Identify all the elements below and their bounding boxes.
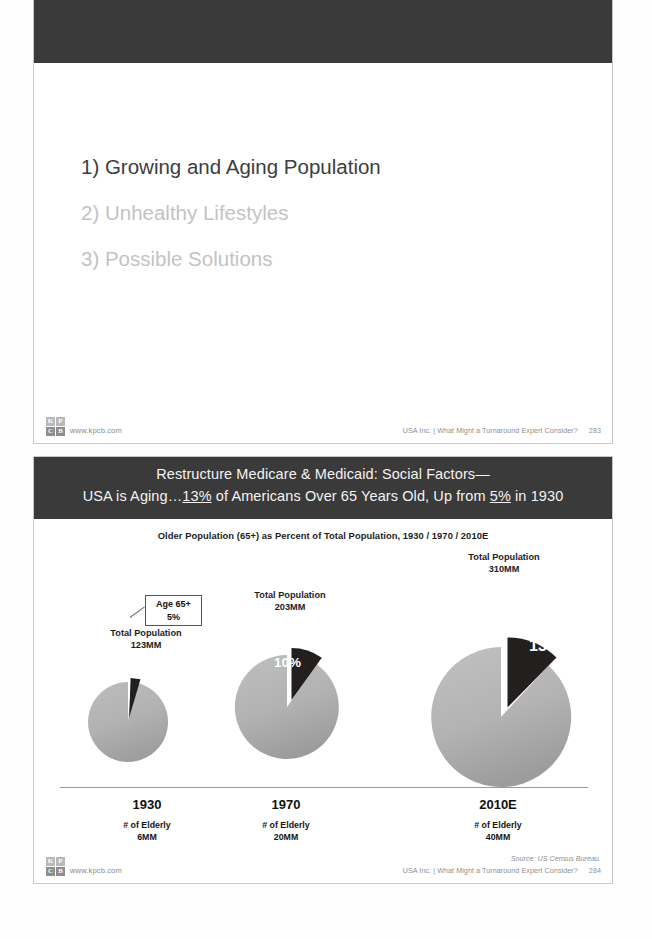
title-segment-a: USA is Aging… [83, 488, 183, 504]
axis-col-2010e: 2010E # of Elderly 40MM [423, 795, 573, 843]
axis-elderly-1930: # of Elderly 6MM [72, 819, 222, 843]
title-stat-5pct: 5% [490, 488, 511, 504]
axis-year-1970: 1970 [211, 795, 361, 815]
slide-title-line-1: Restructure Medicare & Medicaid: Social … [34, 463, 612, 485]
agenda-list: 1) Growing and Aging Population 2) Unhea… [81, 144, 561, 282]
axis-elderly-1970: # of Elderly 20MM [211, 819, 361, 843]
deck-reference-text: USA Inc. | What Might a Turnaround Exper… [403, 426, 578, 435]
pie-2010e-population-label: Total Population 310MM [424, 551, 584, 575]
pie-1970-svg [220, 629, 360, 789]
slide-title-line-2: USA is Aging…13% of Americans Over 65 Ye… [34, 485, 612, 507]
footer-deck-reference: USA Inc. | What Might a Turnaround Exper… [403, 426, 601, 435]
title-stat-13pct: 13% [182, 488, 211, 504]
pie-1930-slice-under65 [88, 682, 168, 762]
slide-footer: K P C B www.kpcb.com Source: US Census B… [34, 849, 612, 883]
pie-chart-group: Older Population (65+) as Percent of Tot… [34, 519, 612, 849]
kpcb-logo-icon: K P C B [46, 857, 65, 876]
logo-letter-p: P [56, 417, 65, 426]
slide-agenda: 1) Growing and Aging Population 2) Unhea… [33, 0, 613, 444]
slide-header-bar: Restructure Medicare & Medicaid: Social … [34, 457, 612, 519]
logo-letter-b: B [56, 867, 65, 876]
page-number: 283 [589, 426, 601, 435]
pie-1970-slice-percent: 10% [274, 655, 301, 670]
pie-2010e-pop-value: 310MM [489, 564, 520, 574]
axis-elderly-label-1970: # of Elderly [262, 820, 309, 830]
slide-header-bar [34, 0, 612, 63]
kpcb-url[interactable]: www.kpcb.com [70, 426, 122, 435]
callout-line-2: 5% [167, 612, 180, 622]
axis-elderly-value-2010e: 40MM [486, 832, 510, 842]
axis-year-2010e: 2010E [423, 795, 573, 815]
axis-elderly-2010e: # of Elderly 40MM [423, 819, 573, 843]
agenda-item-3[interactable]: 3) Possible Solutions [81, 236, 561, 282]
axis-col-1970: 1970 # of Elderly 20MM [211, 795, 361, 843]
kpcb-logo-icon: K P C B [46, 417, 65, 436]
footer-deck-reference: USA Inc. | What Might a Turnaround Exper… [403, 866, 601, 875]
pie-1930-svg [72, 666, 184, 778]
logo-letter-p: P [56, 857, 65, 866]
pie-1970-pop-value: 203MM [275, 602, 306, 612]
axis-elderly-value-1970: 20MM [274, 832, 298, 842]
kpcb-url[interactable]: www.kpcb.com [70, 866, 122, 875]
axis-elderly-label-2010e: # of Elderly [474, 820, 521, 830]
pie-1930-pop-value: 123MM [131, 640, 162, 650]
pie-1930-population-label: Total Population 123MM [66, 627, 226, 651]
callout-age-65-plus: Age 65+ 5% [145, 595, 202, 626]
callout-line-1: Age 65+ [156, 599, 191, 609]
logo-letter-k: K [46, 417, 55, 426]
slide-footer: K P C B www.kpcb.com USA Inc. | What Mig… [34, 409, 612, 443]
pie-1970-population-label: Total Population 203MM [210, 589, 370, 613]
chart-baseline [60, 787, 588, 788]
axis-col-1930: 1930 # of Elderly 6MM [72, 795, 222, 843]
callout-leader-line [130, 607, 145, 618]
scanned-presentation-page: 1) Growing and Aging Population 2) Unhea… [0, 0, 652, 939]
page-number: 284 [589, 866, 601, 875]
pie-2010e-pop-title: Total Population [468, 552, 539, 562]
logo-letter-k: K [46, 857, 55, 866]
logo-letter-c: C [46, 427, 55, 436]
pie-1970-pop-title: Total Population [254, 590, 325, 600]
axis-year-1930: 1930 [72, 795, 222, 815]
pie-2010e-slice-percent: 13% [529, 637, 561, 655]
pie-1930-pop-title: Total Population [110, 628, 181, 638]
agenda-item-1[interactable]: 1) Growing and Aging Population [81, 144, 561, 190]
logo-letter-c: C [46, 867, 55, 876]
pie-1970-slice-under65 [235, 655, 339, 759]
title-segment-c: of Americans Over 65 Years Old, Up from [212, 488, 490, 504]
chart-source-note: Source: US Census Bureau. [511, 854, 601, 863]
axis-elderly-value-1930: 6MM [137, 832, 157, 842]
agenda-item-2[interactable]: 2) Unhealthy Lifestyles [81, 190, 561, 236]
chart-subtitle: Older Population (65+) as Percent of Tot… [34, 530, 612, 541]
logo-letter-b: B [56, 427, 65, 436]
deck-reference-text: USA Inc. | What Might a Turnaround Exper… [403, 866, 578, 875]
slide-aging-population: Restructure Medicare & Medicaid: Social … [33, 456, 613, 884]
title-segment-e: in 1930 [511, 488, 563, 504]
axis-elderly-label-1930: # of Elderly [123, 820, 170, 830]
pie-2010e-slice-under65 [431, 647, 571, 787]
pie-2010e-svg [419, 577, 599, 789]
